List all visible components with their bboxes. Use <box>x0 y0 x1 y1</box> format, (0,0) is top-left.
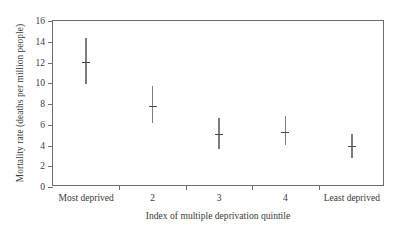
y-tick-label: 14 <box>36 37 46 47</box>
x-tick-label: 3 <box>217 193 222 203</box>
x-tick-mark <box>319 185 320 190</box>
x-tick-label: Most deprived <box>59 193 114 203</box>
y-tick-mark <box>48 166 53 167</box>
plot-area: 0246810121416Most deprived234Least depri… <box>53 21 383 185</box>
y-axis-title: Mortality rate (deaths per million peopl… <box>12 20 28 186</box>
x-tick-mark <box>252 185 253 190</box>
plot-frame: 0246810121416Most deprived234Least depri… <box>52 20 384 186</box>
data-point-marker <box>348 146 356 147</box>
y-tick-label: 4 <box>40 141 45 151</box>
error-bar-whisker <box>285 116 287 146</box>
error-bar-whisker <box>152 86 154 122</box>
y-tick-mark <box>48 146 53 147</box>
y-tick-label: 10 <box>36 78 46 88</box>
y-tick-mark <box>48 63 53 64</box>
data-point-marker <box>149 106 157 107</box>
x-tick-mark <box>119 185 120 190</box>
error-bar-whisker <box>85 38 87 85</box>
x-tick-mark <box>186 185 187 190</box>
y-tick-label: 0 <box>40 182 45 192</box>
x-tick-label: 4 <box>283 193 288 203</box>
y-tick-label: 6 <box>40 120 45 130</box>
y-tick-mark <box>48 21 53 22</box>
x-tick-label: 2 <box>150 193 155 203</box>
x-axis-title: Index of multiple deprivation quintile <box>52 210 384 221</box>
y-axis-title-text: Mortality rate (deaths per million peopl… <box>15 24 25 182</box>
y-tick-label: 12 <box>36 58 46 68</box>
y-tick-mark <box>48 83 53 84</box>
y-tick-label: 16 <box>36 16 46 26</box>
x-tick-label: Least deprived <box>324 193 380 203</box>
y-tick-label: 2 <box>40 161 45 171</box>
y-tick-mark <box>48 125 53 126</box>
y-tick-label: 8 <box>40 99 45 109</box>
y-tick-mark <box>48 104 53 105</box>
y-tick-mark <box>48 187 53 188</box>
mortality-deprivation-chart: Mortality rate (deaths per million peopl… <box>0 0 406 232</box>
data-point-marker <box>215 134 223 135</box>
data-point-marker <box>281 132 289 133</box>
y-tick-mark <box>48 42 53 43</box>
data-point-marker <box>82 62 90 63</box>
